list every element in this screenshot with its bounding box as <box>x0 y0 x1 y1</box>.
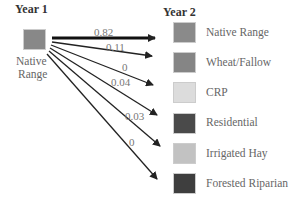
arrow-to-irrigated-hay <box>49 51 160 146</box>
value-irrigated-hay: 0.03 <box>125 110 144 122</box>
transition-arrows <box>0 0 303 205</box>
value-crp: 0 <box>122 61 128 73</box>
value-residential: 0.04 <box>111 76 130 88</box>
value-native-range: 0.82 <box>94 26 113 38</box>
value-wheat-fallow: 0.11 <box>106 41 125 53</box>
arrow-to-residential <box>50 48 157 115</box>
value-forested-riparian: 0 <box>129 136 135 148</box>
arrow-to-wheat-fallow <box>52 42 152 56</box>
